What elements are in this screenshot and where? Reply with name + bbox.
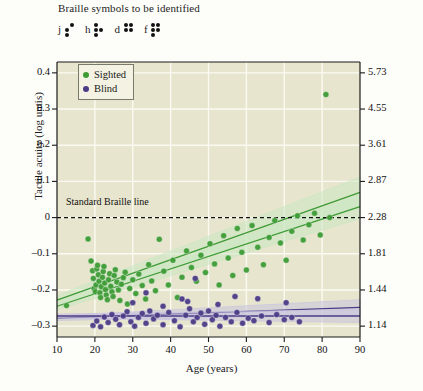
braille-cell-f: f [144,22,161,37]
data-point [161,268,167,274]
data-point [143,290,149,296]
figure-root: Braille symbols to be identified jhdf Si… [0,0,423,391]
data-point [156,236,162,242]
standard-braille-line-label: Standard Braille line [66,196,149,207]
data-point [188,265,194,271]
data-point [101,263,107,269]
data-point [111,272,117,278]
data-point [251,318,257,324]
data-point [289,314,295,320]
data-point [124,301,130,307]
data-point [104,297,110,303]
data-point [255,296,261,302]
data-point [317,232,323,238]
data-point [171,318,177,324]
y-tick-label-left: –0.3 [14,319,50,330]
data-point [185,299,191,305]
data-point [146,262,152,268]
data-point [90,275,96,281]
data-point [166,309,172,315]
data-point [112,267,118,273]
data-point [245,315,251,321]
data-point [221,233,227,239]
y-tick-label-left: –0.2 [14,283,50,294]
data-point [259,313,265,319]
braille-letter-label: j [58,24,61,35]
data-point [306,222,312,228]
data-point [143,320,149,326]
data-point [260,262,266,268]
legend-item-blind[interactable]: Blind [83,82,126,96]
data-point [147,308,153,314]
data-point [206,308,212,314]
legend-swatch-sighted [83,72,89,78]
data-point [198,310,204,316]
data-point [108,283,114,289]
y-tick-label-left: 0.3 [14,102,50,113]
data-point [187,306,193,312]
data-point [102,287,108,293]
data-point [143,296,149,302]
data-point [177,324,183,330]
braille-cell-j: j [58,22,74,37]
data-point [184,248,190,254]
y-tick-label-right: 2.87 [368,174,402,185]
data-point [300,237,306,243]
data-point [88,258,94,264]
data-point [120,275,126,281]
data-point [101,314,107,320]
data-point [139,310,145,316]
data-point [202,321,208,327]
braille-symbol-row: jhdf [58,22,161,37]
data-point [230,272,236,278]
data-point [240,320,246,326]
y-tick-label-left: 0 [14,211,50,222]
braille-letter-label: h [85,24,91,35]
data-point [323,92,329,98]
data-point [234,309,240,315]
data-point [149,278,155,284]
braille-letter-label: f [144,24,148,35]
data-point [160,322,166,328]
data-point [116,322,122,328]
data-point [312,210,318,216]
data-point [115,287,121,293]
data-point [232,293,238,299]
y-tick-label-left: –0.1 [14,247,50,258]
x-tick-label: 90 [345,344,375,355]
data-point [289,228,295,234]
data-point [122,269,128,275]
data-point [127,286,133,292]
data-point [118,281,124,287]
figure-caption: Braille symbols to be identified [58,2,200,14]
data-point [283,300,289,306]
data-point [95,262,101,268]
data-point [216,282,222,288]
data-point [249,223,255,229]
data-point [110,293,116,299]
data-point [136,271,142,277]
data-point [106,277,112,283]
y-tick-label-left: 0.2 [14,138,50,149]
data-point [272,217,278,223]
x-tick-label: 50 [194,344,224,355]
braille-dots-icon [94,22,104,37]
data-point [283,257,289,263]
data-point [165,282,171,288]
data-point [98,295,104,301]
y-tick-label-right: 2.28 [368,211,402,222]
legend-item-sighted[interactable]: Sighted [83,68,126,82]
braille-cell-h: h [85,22,104,37]
data-point [85,236,91,242]
data-point [94,318,100,324]
data-point [243,267,249,273]
data-point [274,312,280,318]
data-point [132,323,138,329]
legend: Sighted Blind [78,64,134,100]
braille-dots-icon [151,22,161,37]
data-point [130,300,136,306]
data-point [183,312,189,318]
data-point [179,274,185,280]
data-point [207,241,213,247]
data-point [295,213,301,219]
